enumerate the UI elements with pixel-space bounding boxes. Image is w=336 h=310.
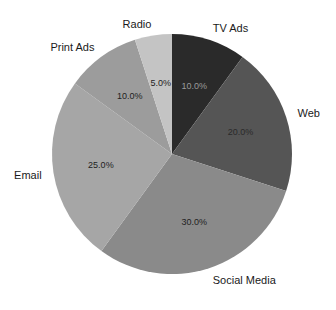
pie-slices xyxy=(52,34,292,274)
slice-percent: 5.0% xyxy=(150,78,171,88)
slice-label: TV Ads xyxy=(213,22,249,34)
slice-percent: 30.0% xyxy=(181,217,207,227)
slice-label: Social Media xyxy=(213,274,277,286)
slice-percent: 10.0% xyxy=(181,81,207,91)
slice-label: Print Ads xyxy=(50,41,95,53)
slice-percent: 25.0% xyxy=(88,160,114,170)
slice-percent: 20.0% xyxy=(228,127,254,137)
slice-label: Email xyxy=(14,169,42,181)
slice-label: Radio xyxy=(123,18,152,30)
slice-label: Web xyxy=(298,107,320,119)
slice-percent: 10.0% xyxy=(117,91,143,101)
pie-chart: TV Ads10.0%Web20.0%Social Media30.0%Emai… xyxy=(0,0,336,310)
